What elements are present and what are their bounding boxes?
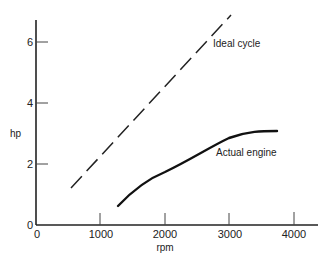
series-ideal-cycle <box>71 15 231 188</box>
y-tick-label: 2 <box>27 158 33 170</box>
y-tick-label: 6 <box>27 36 33 48</box>
label-actual-engine: Actual engine <box>216 147 277 158</box>
series-actual-engine <box>118 131 277 206</box>
x-tick-label: 1000 <box>89 228 113 240</box>
x-axis-label: rpm <box>156 242 173 253</box>
y-axis-label: hp <box>10 128 22 139</box>
x-tick-label: 3000 <box>218 228 242 240</box>
x-tick-label: 2000 <box>153 228 177 240</box>
x-tick-label: 4000 <box>282 228 306 240</box>
y-ticks <box>36 42 48 164</box>
x-ticks <box>100 212 294 225</box>
y-tick-label: 0 <box>27 219 33 231</box>
y-tick-label: 4 <box>27 97 33 109</box>
label-ideal-cycle: Ideal cycle <box>213 38 261 49</box>
chart: 6 4 2 0 0 1000 2000 3000 4000 hp rpm Ide… <box>0 0 328 259</box>
x-tick-label: 0 <box>34 228 40 240</box>
